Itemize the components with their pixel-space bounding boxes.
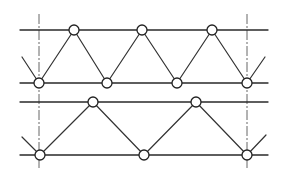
- pin-joint-node-icon: [242, 150, 252, 160]
- diagonal-member: [107, 30, 142, 83]
- diagonal-member: [212, 30, 247, 83]
- trusses: [20, 25, 268, 160]
- diagonal-member: [93, 102, 144, 155]
- diagonal-member: [177, 30, 212, 83]
- support-axes: [39, 14, 247, 170]
- pin-joint-node-icon: [137, 25, 147, 35]
- diagonal-member: [39, 30, 74, 83]
- pin-joint-node-icon: [207, 25, 217, 35]
- pin-joint-node-icon: [242, 78, 252, 88]
- pin-joint-node-icon: [34, 78, 44, 88]
- diagonal-member: [196, 102, 247, 155]
- pin-joint-node-icon: [172, 78, 182, 88]
- truss-diagram: [0, 0, 284, 183]
- diagonal-member: [144, 102, 196, 155]
- pin-joint-node-icon: [191, 97, 201, 107]
- diagonal-member: [74, 30, 107, 83]
- pin-joint-node-icon: [69, 25, 79, 35]
- truss-top: [20, 25, 268, 88]
- pin-joint-node-icon: [102, 78, 112, 88]
- diagonal-member: [142, 30, 177, 83]
- truss-bottom: [20, 97, 268, 160]
- pin-joint-node-icon: [88, 97, 98, 107]
- pin-joint-node-icon: [35, 150, 45, 160]
- pin-joint-node-icon: [139, 150, 149, 160]
- diagonal-member: [40, 102, 93, 155]
